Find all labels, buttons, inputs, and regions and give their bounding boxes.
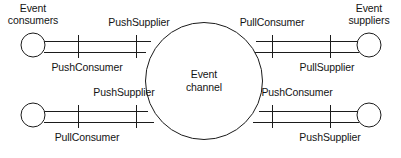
label-top-right-below: PullSupplier	[300, 62, 355, 74]
event-consumers-label: Event consumers	[8, 3, 58, 26]
event-suppliers-circle-bottom	[357, 103, 381, 127]
event-channel-label-line2: channel	[186, 81, 222, 94]
event-suppliers-label-line1: Event	[348, 3, 389, 15]
event-consumers-circle-bottom	[21, 103, 45, 127]
event-consumers-label-line2: consumers	[8, 15, 58, 27]
event-suppliers-label: Event suppliers	[348, 3, 389, 26]
label-bottom-left-above: PushSupplier	[93, 87, 154, 99]
event-suppliers-label-line2: suppliers	[348, 15, 389, 27]
label-bottom-right-below: PushSupplier	[299, 132, 360, 144]
label-bottom-left-below: PullConsumer	[55, 132, 120, 144]
event-suppliers-circle-top	[357, 33, 381, 57]
connection-bottom-left	[44, 105, 154, 128]
event-channel-label-line1: Event	[186, 68, 222, 81]
event-consumers-circle-top	[21, 33, 45, 57]
event-channel-label: Event channel	[186, 68, 222, 94]
connection-top-left	[44, 35, 151, 58]
label-top-right-above: PullConsumer	[240, 17, 305, 29]
label-bottom-right-above: PushConsumer	[261, 87, 332, 99]
event-consumers-label-line1: Event	[8, 3, 58, 15]
label-top-left-above: PushSupplier	[108, 17, 169, 29]
label-top-left-below: PushConsumer	[51, 62, 122, 74]
connection-top-right	[251, 35, 359, 58]
connection-bottom-right	[253, 105, 359, 128]
event-channel-diagram: Event consumers Event suppliers Event ch…	[0, 0, 401, 158]
